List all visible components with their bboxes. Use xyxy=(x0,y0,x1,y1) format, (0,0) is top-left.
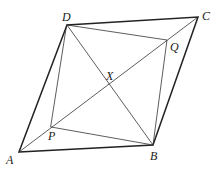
geometry-diagram: A B C D X P Q xyxy=(0,0,223,170)
inner-quadrilateral-pbqd xyxy=(51,25,167,145)
diagonal-ac xyxy=(19,17,198,152)
label-d: D xyxy=(61,10,71,24)
label-p: P xyxy=(47,129,56,143)
diagonal-db xyxy=(67,25,153,145)
label-a: A xyxy=(5,153,14,167)
label-q: Q xyxy=(170,40,179,54)
label-x: X xyxy=(105,69,114,83)
label-b: B xyxy=(150,149,158,163)
label-c: C xyxy=(202,9,211,23)
